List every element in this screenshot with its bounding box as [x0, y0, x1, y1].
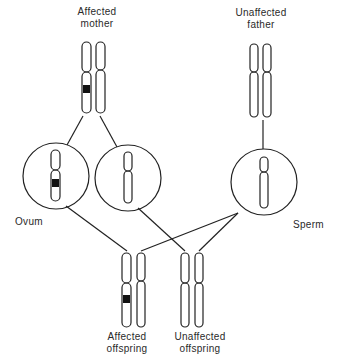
label-affected-mother-line1: Affected	[67, 6, 127, 18]
unaffected-offspring-chromosome-1	[181, 253, 189, 327]
label-unaffected-offspring-line1: Unaffected	[165, 331, 235, 343]
label-unaffected-father-line2: father	[226, 19, 296, 31]
label-affected-offspring-line2: offspring	[99, 343, 155, 355]
sperm-cell	[231, 149, 297, 215]
label-affected-mother-line2: mother	[67, 18, 127, 30]
affected-offspring-chromosome-1	[122, 253, 131, 327]
label-unaffected-father: Unaffected father	[226, 7, 296, 31]
line-ovum-affected-to-offspring	[66, 206, 127, 251]
line-ovum-normal-to-offspring	[138, 208, 185, 251]
ovum-normal	[95, 145, 161, 211]
label-affected-offspring: Affected offspring	[99, 331, 155, 355]
affected-offspring-chromosome-2	[137, 253, 145, 327]
mother-chromosome-normal	[96, 42, 105, 113]
line-mother-to-ovum-affected	[67, 116, 83, 145]
father-chromosome-1	[250, 44, 258, 117]
mother-chromosome-affected	[82, 42, 91, 113]
line-sperm-to-affected-offspring	[141, 213, 238, 251]
line-mother-to-ovum-normal	[100, 116, 117, 147]
unaffected-offspring-chromosome-2	[195, 253, 203, 327]
label-ovum: Ovum	[15, 216, 43, 228]
label-sperm: Sperm	[293, 219, 324, 231]
label-unaffected-offspring-line2: offspring	[165, 343, 235, 355]
ovum-affected	[23, 143, 89, 209]
label-affected-mother: Affected mother	[67, 6, 127, 30]
inheritance-diagram	[0, 0, 339, 364]
father-chromosome-2	[263, 44, 271, 117]
label-unaffected-offspring: Unaffected offspring	[165, 331, 235, 355]
label-unaffected-father-line1: Unaffected	[226, 7, 296, 19]
line-sperm-to-unaffected-offspring	[199, 213, 238, 251]
label-affected-offspring-line1: Affected	[99, 331, 155, 343]
